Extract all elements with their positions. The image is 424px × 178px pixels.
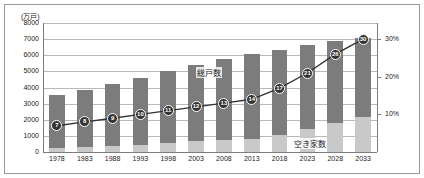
x-tick-label: 2018	[266, 155, 294, 162]
data-point-marker: 9	[107, 113, 118, 124]
x-tick-label: 1988	[99, 155, 127, 162]
data-point-marker: 12	[191, 101, 202, 112]
y-axis-right-line	[377, 23, 378, 152]
x-tick-label: 2028	[321, 155, 349, 162]
data-point-marker: 13	[218, 98, 229, 109]
y2-tick-label: 30%	[385, 35, 415, 42]
y-tick-label: 1000	[9, 132, 39, 139]
x-tick-label: 1993	[126, 155, 154, 162]
y-tick-label: 5000	[9, 67, 39, 74]
y-tick-label: 2000	[9, 116, 39, 123]
data-point-marker: 30	[358, 34, 369, 45]
x-tick-label: 1978	[43, 155, 71, 162]
data-point-marker: 10	[135, 109, 146, 120]
y2-tick-label: 10%	[385, 110, 415, 117]
y-tick-label: 4000	[9, 84, 39, 91]
gridline	[43, 152, 377, 153]
y-tick-label: 7000	[9, 35, 39, 42]
x-tick-label: 1983	[71, 155, 99, 162]
y2-tick-label: 20%	[385, 73, 415, 80]
data-point-marker: 11	[163, 105, 174, 116]
line-path	[57, 39, 363, 126]
data-point-marker: 17	[274, 83, 285, 94]
data-point-marker: 26	[330, 49, 341, 60]
y-tick-label: 0	[9, 148, 39, 155]
data-point-marker: 21	[302, 68, 313, 79]
x-tick-label: 2003	[182, 155, 210, 162]
x-tick-label: 2008	[210, 155, 238, 162]
x-tick-label: 2033	[349, 155, 377, 162]
chart-screenshot: (万戸) 800070006000500040003000200010000 3…	[0, 0, 424, 178]
vacancy-rate-line	[43, 23, 377, 152]
y-tick-label: 3000	[9, 100, 39, 107]
chart-frame: (万戸) 800070006000500040003000200010000 3…	[4, 4, 420, 174]
x-tick-label: 2023	[293, 155, 321, 162]
x-tick-label: 1998	[154, 155, 182, 162]
series-annotation: 空き家数	[293, 138, 327, 149]
y-tick-label: 6000	[9, 51, 39, 58]
y-tick-label: 8000	[9, 19, 39, 26]
series-annotation: 総戸数	[196, 67, 222, 78]
x-tick-label: 2013	[238, 155, 266, 162]
